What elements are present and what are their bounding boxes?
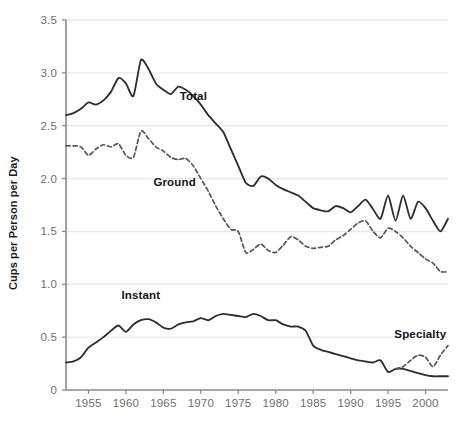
x-tick-label: 1975 (225, 397, 251, 409)
x-tick-label: 1995 (375, 397, 401, 409)
y-tick-label: 0.5 (40, 331, 57, 343)
x-tick-label: 1960 (113, 397, 139, 409)
y-axis-group: 00.51.01.52.02.53.03.5 (40, 14, 66, 396)
x-tick-label: 2000 (412, 397, 438, 409)
y-tick-label: 2.5 (40, 120, 57, 132)
x-tick-label: 1990 (337, 397, 363, 409)
x-tick-label: 1955 (75, 397, 101, 409)
y-axis-title-group: Cups per Person per Day (7, 155, 19, 290)
series-line-specialty (396, 346, 448, 369)
x-tick-label: 1965 (150, 397, 176, 409)
series-label-specialty: Specialty (394, 328, 446, 340)
series-line-total (66, 60, 448, 232)
series-label-instant: Instant (122, 289, 161, 301)
chart-canvas: 00.51.01.52.02.53.03.5 19551960196519701… (0, 0, 466, 426)
y-tick-label: 1.5 (40, 225, 57, 237)
y-tick-label: 1.0 (40, 278, 57, 290)
y-tick-label: 3.0 (40, 67, 57, 79)
x-tick-label: 1980 (263, 397, 289, 409)
series-label-total: Total (180, 90, 207, 102)
x-axis-group: 1955196019651970197519801985199019952000 (66, 390, 448, 409)
coffee-consumption-chart: 00.51.01.52.02.53.03.5 19551960196519701… (0, 0, 466, 426)
x-tick-label: 1985 (300, 397, 326, 409)
y-axis-title: Cups per Person per Day (7, 155, 19, 290)
series-line-instant (66, 314, 448, 376)
y-tick-label: 3.5 (40, 14, 57, 26)
y-tick-label: 0 (50, 384, 57, 396)
series-group (66, 60, 448, 377)
series-label-ground: Ground (153, 176, 195, 188)
x-tick-label: 1970 (188, 397, 214, 409)
y-tick-label: 2.0 (40, 173, 57, 185)
